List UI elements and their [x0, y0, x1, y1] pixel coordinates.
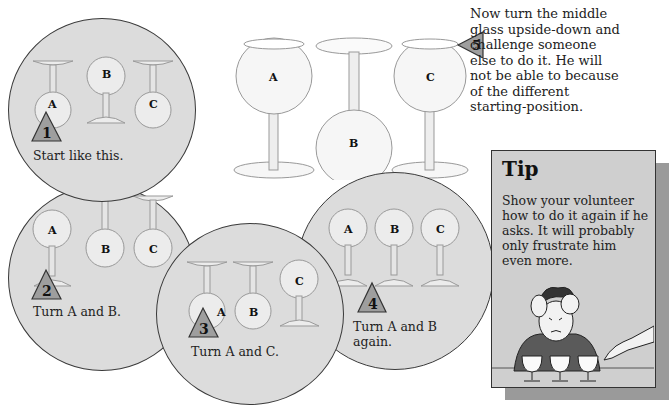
large-glass-a	[234, 38, 314, 178]
step-5-line: Now turn the middle	[470, 6, 665, 22]
step-5-line: starting-position.	[470, 99, 665, 115]
svg-text:B: B	[101, 243, 110, 256]
step-2-caption: Turn A and B.	[33, 304, 121, 319]
svg-text:1: 1	[42, 125, 52, 141]
svg-text:A: A	[47, 98, 57, 111]
step-5-line: not be able to because	[470, 68, 665, 84]
step-3-circle: A B C 3 Turn A and C.	[156, 223, 344, 405]
large-glass-c-label: C	[426, 71, 435, 84]
step-1-caption: Start like this.	[33, 148, 123, 163]
svg-text:A: A	[47, 224, 57, 237]
svg-text:B: B	[102, 68, 111, 81]
step-3-caption: Turn A and C.	[191, 344, 279, 359]
step-5-line: else to do it. He will	[470, 53, 665, 69]
large-glasses-illustration: A B C	[230, 30, 470, 180]
step-5-line: glass upside-down and	[470, 22, 665, 38]
step-5-line: challenge someone	[470, 37, 665, 53]
step-4-caption: Turn A and B again.	[353, 319, 437, 349]
large-glass-b-label: B	[349, 137, 358, 150]
step-5-text: Now turn the middle glass upside-down an…	[470, 6, 665, 115]
svg-text:A: A	[216, 306, 226, 319]
tip-text: Show your volunteer how to do it again i…	[502, 193, 652, 268]
step-1-circle: A B C 1 Start like this.	[8, 18, 196, 202]
step-5-line: of the different	[470, 84, 665, 100]
svg-text:B: B	[249, 306, 258, 319]
large-glass-b	[316, 38, 392, 180]
frustrated-man-illustration	[492, 276, 654, 386]
svg-text:C: C	[436, 223, 445, 236]
svg-text:C: C	[295, 275, 304, 288]
svg-text:3: 3	[199, 321, 209, 337]
svg-text:C: C	[149, 98, 158, 111]
svg-text:4: 4	[368, 296, 378, 312]
large-glass-a-label: A	[268, 71, 278, 84]
svg-text:B: B	[390, 223, 399, 236]
tip-box: Tip Show your volunteer how to do it aga…	[491, 150, 656, 388]
svg-text:2: 2	[42, 283, 52, 299]
tip-title: Tip	[502, 157, 538, 181]
